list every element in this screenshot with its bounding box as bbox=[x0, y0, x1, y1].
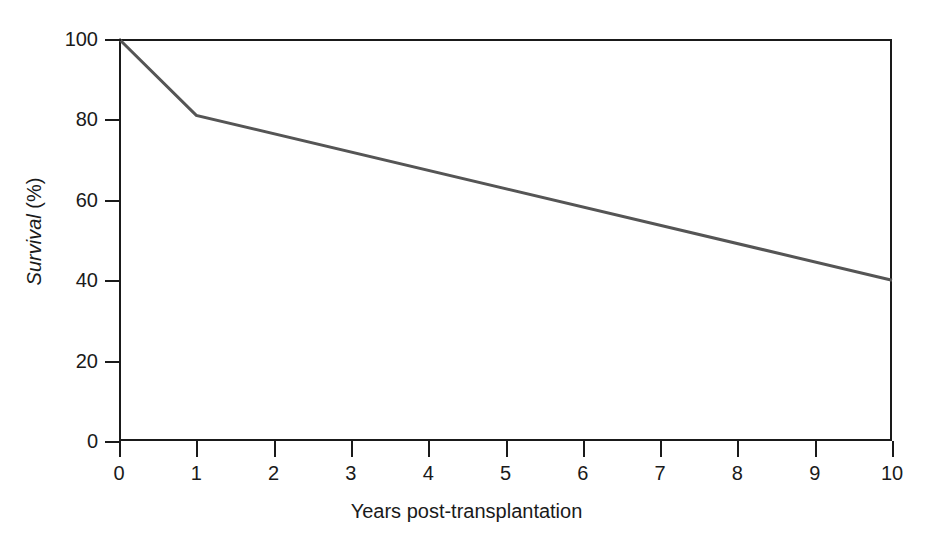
survival-chart-figure: 020406080100 012345678910 Years post-tra… bbox=[0, 0, 933, 548]
y-axis-title-units bbox=[23, 209, 45, 215]
x-tick-label-9: 9 bbox=[785, 462, 845, 484]
x-tick-label-10: 10 bbox=[862, 462, 922, 484]
x-tick-9 bbox=[815, 441, 817, 457]
y-tick-label-60: 60 bbox=[40, 190, 98, 210]
y-tick-label-40: 40 bbox=[40, 270, 98, 290]
data-line-layer bbox=[119, 39, 892, 441]
y-tick-label-0: 0 bbox=[40, 431, 98, 451]
x-tick-8 bbox=[737, 441, 739, 457]
y-tick-80 bbox=[105, 119, 121, 121]
y-axis-title-roman: (%) bbox=[23, 178, 45, 209]
x-axis-title: Years post-transplantation bbox=[0, 500, 933, 523]
x-tick-5 bbox=[506, 441, 508, 457]
x-tick-label-2: 2 bbox=[244, 462, 304, 484]
x-tick-label-5: 5 bbox=[476, 462, 536, 484]
y-axis-title-italic: Survival bbox=[23, 214, 45, 285]
x-tick-label-0: 0 bbox=[89, 462, 149, 484]
x-tick-label-7: 7 bbox=[630, 462, 690, 484]
x-tick-4 bbox=[428, 441, 430, 457]
y-tick-label-20: 20 bbox=[40, 351, 98, 371]
x-tick-0 bbox=[119, 441, 121, 457]
x-tick-label-8: 8 bbox=[707, 462, 767, 484]
x-tick-label-6: 6 bbox=[553, 462, 613, 484]
y-axis-title: Survival (%) bbox=[23, 122, 46, 342]
x-tick-1 bbox=[196, 441, 198, 457]
y-tick-60 bbox=[105, 200, 121, 202]
y-tick-20 bbox=[105, 361, 121, 363]
x-tick-10 bbox=[892, 441, 894, 457]
x-tick-label-1: 1 bbox=[166, 462, 226, 484]
x-tick-3 bbox=[351, 441, 353, 457]
y-tick-100 bbox=[105, 39, 121, 41]
x-tick-label-4: 4 bbox=[398, 462, 458, 484]
series-survival-line bbox=[119, 39, 892, 280]
x-tick-6 bbox=[583, 441, 585, 457]
x-tick-label-3: 3 bbox=[321, 462, 381, 484]
y-tick-40 bbox=[105, 280, 121, 282]
y-tick-label-100: 100 bbox=[40, 29, 98, 49]
x-tick-7 bbox=[660, 441, 662, 457]
y-tick-label-80: 80 bbox=[40, 109, 98, 129]
x-tick-2 bbox=[274, 441, 276, 457]
